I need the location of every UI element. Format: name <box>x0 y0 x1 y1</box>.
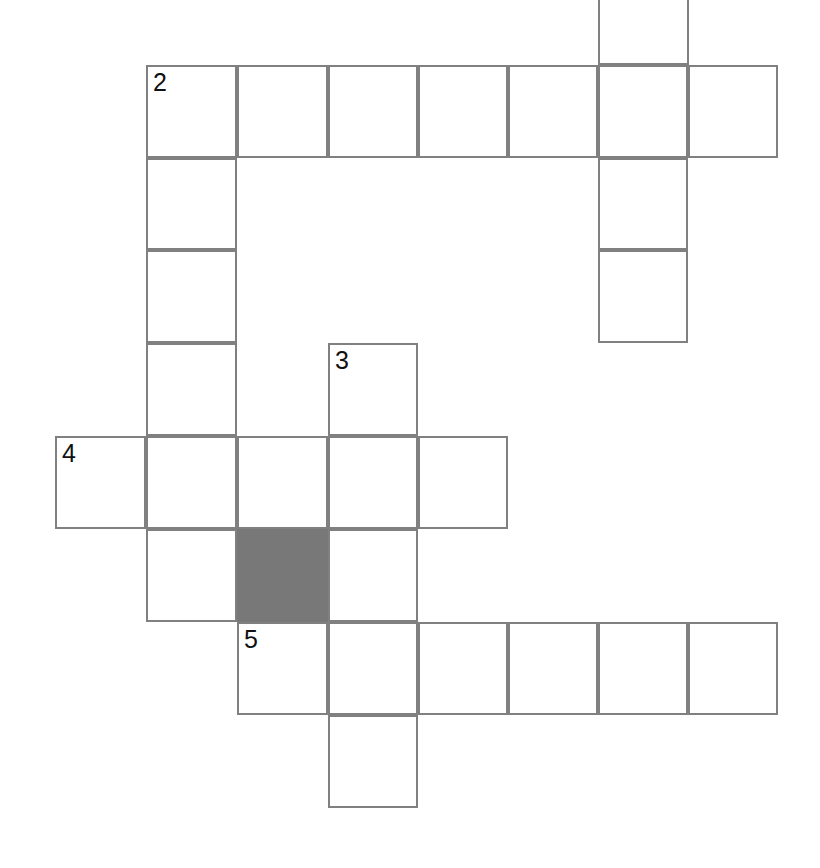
crossword-cell[interactable] <box>328 436 418 529</box>
crossword-cell[interactable] <box>598 0 689 65</box>
crossword-cell-blocked <box>237 529 328 622</box>
crossword-puzzle: 2345 <box>0 0 820 868</box>
crossword-cell[interactable] <box>328 622 418 715</box>
crossword-cell[interactable] <box>418 65 508 158</box>
crossword-cell[interactable] <box>508 622 598 715</box>
crossword-cell[interactable] <box>328 65 418 158</box>
crossword-cell[interactable]: 3 <box>328 343 418 436</box>
crossword-cell[interactable] <box>598 250 688 343</box>
crossword-cell[interactable] <box>328 529 418 622</box>
crossword-cell[interactable] <box>237 436 328 529</box>
cell-number-4: 4 <box>62 439 76 467</box>
crossword-cell[interactable] <box>598 622 688 715</box>
crossword-cell[interactable]: 5 <box>237 622 328 715</box>
crossword-cell[interactable]: 4 <box>55 436 146 529</box>
crossword-cell[interactable] <box>688 65 778 158</box>
crossword-cell[interactable] <box>146 250 237 343</box>
cell-number-5: 5 <box>244 625 258 653</box>
crossword-cell[interactable] <box>598 158 688 250</box>
crossword-cell[interactable] <box>146 343 237 436</box>
cell-number-2: 2 <box>153 68 167 96</box>
crossword-grid[interactable]: 2345 <box>0 0 820 868</box>
crossword-cell[interactable] <box>146 158 237 250</box>
crossword-cell[interactable] <box>418 622 508 715</box>
cell-number-3: 3 <box>335 346 349 374</box>
crossword-cell[interactable] <box>328 715 418 808</box>
crossword-cell[interactable]: 2 <box>146 65 237 158</box>
crossword-cell[interactable] <box>418 436 508 529</box>
crossword-cell[interactable] <box>688 622 778 715</box>
crossword-cell[interactable] <box>237 65 328 158</box>
crossword-cell[interactable] <box>508 65 598 158</box>
crossword-cell[interactable] <box>146 529 237 622</box>
crossword-cell[interactable] <box>146 436 237 529</box>
crossword-cell[interactable] <box>598 65 688 158</box>
